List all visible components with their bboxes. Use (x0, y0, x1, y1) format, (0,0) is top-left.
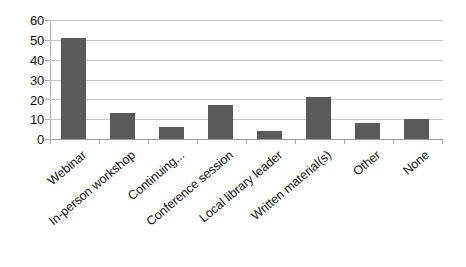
x-axis-labels: Webinar In-person workshop Continuing...… (0, 0, 466, 267)
bar-chart: 60 50 40 30 20 10 0 (0, 0, 466, 267)
